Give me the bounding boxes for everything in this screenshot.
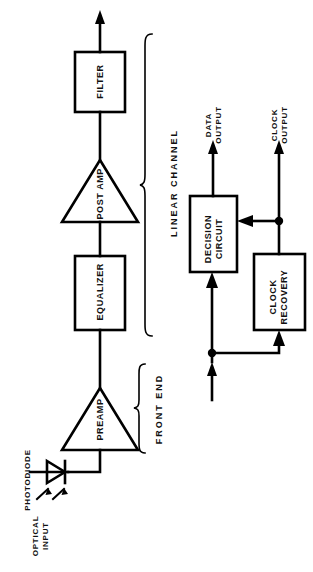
clock-output-label: CLOCKOUTPUT (270, 97, 290, 153)
data-output-line1: DATA (204, 113, 213, 137)
filter-label: FILTER (95, 60, 106, 104)
clock-recovery-input-line (212, 344, 279, 353)
clock-output-line2: OUTPUT (280, 106, 289, 144)
front-end-label: FRONT END (154, 371, 164, 447)
linear-channel-brace (140, 34, 152, 336)
photodiode-label: PHOTODIODE (23, 444, 33, 516)
preamp-label: PREAMP (95, 398, 106, 442)
clock-feedback-arrowhead (237, 215, 253, 227)
receiver-input-arrowhead (207, 362, 217, 376)
clock-recovery-input-arrowhead (273, 330, 285, 346)
post-amp-label: POST AMP (95, 172, 106, 220)
decision-circuit-label: DECISIONCIRCUIT (203, 208, 225, 270)
decision-input-arrowhead (206, 272, 218, 288)
photodiode-to-preamp-line (68, 450, 100, 472)
decision-circuit-text: DECISIONCIRCUIT (203, 215, 224, 263)
data-output-label: DATAOUTPUT (204, 97, 224, 153)
clock-recovery-label: CLOCKRECOVERY (268, 266, 290, 328)
equalizer-label: EQUALIZER (95, 265, 106, 321)
optical-input-label: OPTICALINPUT (31, 508, 51, 564)
clock-recovery-text: CLOCKRECOVERY (268, 270, 289, 325)
receiver-block-diagram (0, 0, 313, 572)
data-output-line2: OUTPUT (214, 106, 223, 144)
optical-input-line2: INPUT (41, 522, 50, 550)
linear-channel-label: LINEAR CHANNEL (169, 128, 179, 238)
clock-output-line1: CLOCK (270, 109, 279, 141)
optical-input-line1: OPTICAL (31, 516, 40, 557)
filter-output-arrowhead (95, 10, 105, 24)
front-end-brace (134, 364, 145, 453)
